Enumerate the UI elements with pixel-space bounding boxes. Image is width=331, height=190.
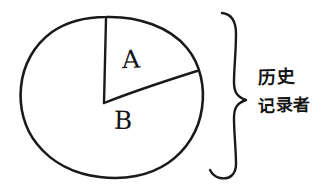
sketch-canvas: A B 历史 记录者 <box>0 0 331 190</box>
annotation-line-2: 记录者 <box>258 96 328 114</box>
slice-a-radius-top <box>104 19 106 103</box>
slice-a-radius-right <box>104 71 197 103</box>
slice-label-b: B <box>114 108 133 133</box>
annotation-text: 历史 记录者 <box>258 68 328 114</box>
curly-brace <box>210 13 246 178</box>
slice-label-a: A <box>122 47 141 73</box>
annotation-line-1: 历史 <box>258 67 328 87</box>
circle-outline <box>21 17 203 178</box>
